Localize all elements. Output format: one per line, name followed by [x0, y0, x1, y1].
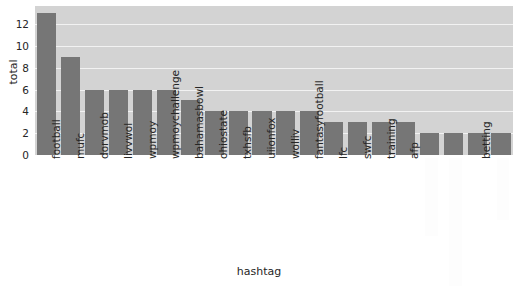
y-tick-label: 8	[5, 62, 29, 74]
x-tick-label: fantasyfootball	[314, 80, 325, 159]
x-tick-label: swfc	[362, 135, 373, 159]
x-tick-label: bahamasbowl	[194, 86, 205, 159]
y-tick-label: 2	[5, 127, 29, 139]
x-tick-label: livvwol	[123, 123, 134, 159]
x-tick-label: training	[386, 118, 397, 159]
bar	[420, 133, 439, 155]
bar	[444, 133, 463, 155]
x-axis-label: hashtag	[0, 265, 518, 278]
redaction-overlay	[449, 158, 462, 286]
bar-chart-figure: total 024681012 footballmufcdorvmoblivvw…	[0, 0, 518, 290]
x-tick-label: mufc	[75, 133, 86, 159]
bar	[491, 133, 510, 155]
y-tick-label: 0	[5, 149, 29, 161]
x-tick-label: dorvmob	[99, 112, 110, 159]
y-tick-label: 4	[5, 105, 29, 117]
x-tick-label: lfc	[338, 147, 349, 159]
y-axis-ticks: 024681012	[5, 0, 29, 290]
x-tick-label: betting	[481, 121, 492, 159]
redaction-overlay	[425, 158, 438, 236]
redaction-overlay	[497, 158, 509, 220]
y-tick-label: 6	[5, 84, 29, 96]
x-tick-label: afp	[409, 142, 420, 159]
y-tick-label: 10	[5, 40, 29, 52]
x-axis-ticks: footballmufcdorvmoblivvwolwpmoywpmoychal…	[35, 157, 513, 257]
x-tick-label: football	[51, 119, 62, 159]
x-tick-label: wpmoy	[147, 121, 158, 159]
y-tick-label: 12	[5, 18, 29, 30]
x-tick-label: ohiostate	[218, 110, 229, 159]
x-tick-label: txhsfb	[242, 126, 253, 159]
x-tick-label: wolliv	[290, 129, 301, 159]
x-tick-label: uiionfox	[266, 117, 277, 159]
x-tick-label: wpmoychallenge	[170, 70, 181, 159]
